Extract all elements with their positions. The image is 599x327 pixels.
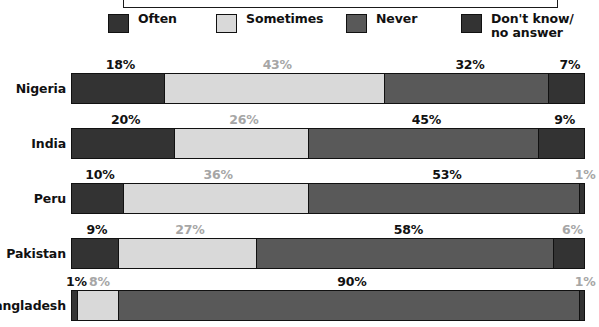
bar-value-label: 1% — [66, 274, 87, 289]
bar-value-label: 8% — [89, 274, 110, 289]
bar-value-label: 45% — [412, 112, 441, 127]
bar-value-label: 20% — [111, 112, 140, 127]
bar-segment — [579, 184, 584, 213]
bar-value-label: 26% — [229, 112, 258, 127]
chart-row: Bangladesh1%8%90%1% — [0, 272, 599, 327]
bar-segment — [118, 291, 579, 320]
stacked-bar-india — [71, 128, 585, 159]
row-label-bangladesh: Bangladesh — [0, 298, 66, 313]
legend-label-sometimes: Sometimes — [246, 12, 323, 26]
bar-value-label: 53% — [432, 167, 461, 182]
bar-value-label: 9% — [87, 222, 108, 237]
bar-segment — [579, 291, 584, 320]
bar-segment — [308, 129, 538, 158]
legend-swatch-sometimes-icon — [216, 14, 237, 33]
chart-row: Peru10%36%53%1% — [0, 165, 599, 220]
bar-segment — [72, 239, 118, 268]
legend-item-dont-know: Don't know/ no answer — [461, 12, 599, 46]
bar-value-label: 18% — [106, 57, 135, 72]
chart-row: India20%26%45%9% — [0, 110, 599, 165]
legend-item-sometimes: Sometimes — [216, 12, 346, 46]
bar-segment — [118, 239, 256, 268]
bar-segment — [123, 184, 307, 213]
bar-segment — [164, 74, 384, 103]
row-label-pakistan: Pakistan — [0, 246, 66, 261]
bar-value-label: 32% — [455, 57, 484, 72]
legend-swatch-often-icon — [108, 14, 129, 33]
chart-row: Pakistan9%27%58%6% — [0, 220, 599, 275]
legend-item-often: Often — [108, 12, 218, 46]
stacked-bar-chart: Often Sometimes Never Don't know/ no ans… — [0, 0, 599, 327]
legend-swatch-never-icon — [346, 14, 367, 33]
bar-segment — [256, 239, 553, 268]
bar-value-label: 9% — [554, 112, 575, 127]
bar-value-label: 10% — [85, 167, 114, 182]
stacked-bar-pakistan — [71, 238, 585, 269]
chart-row: Nigeria18%43%32%7% — [0, 55, 599, 110]
stacked-bar-peru — [71, 183, 585, 214]
bar-value-label: 7% — [559, 57, 580, 72]
row-label-peru: Peru — [0, 191, 66, 206]
legend-border-box — [123, 0, 558, 8]
bar-value-label: 58% — [394, 222, 423, 237]
legend-item-never: Never — [346, 12, 461, 46]
bar-segment — [72, 129, 174, 158]
stacked-bar-nigeria — [71, 73, 585, 104]
bar-value-label: 1% — [575, 274, 596, 289]
bar-value-label: 90% — [337, 274, 366, 289]
bar-segment — [72, 184, 123, 213]
legend-label-never: Never — [376, 12, 417, 26]
row-label-india: India — [0, 136, 66, 151]
bar-segment — [548, 74, 584, 103]
bar-value-label: 43% — [263, 57, 292, 72]
bar-segment — [308, 184, 579, 213]
legend-swatch-dont-know-icon — [461, 14, 482, 33]
bar-segment — [174, 129, 307, 158]
bar-segment — [538, 129, 584, 158]
bar-value-label: 27% — [175, 222, 204, 237]
bar-segment — [384, 74, 548, 103]
bar-value-label: 1% — [575, 167, 596, 182]
row-label-nigeria: Nigeria — [0, 81, 66, 96]
bar-segment — [77, 291, 118, 320]
bar-segment — [553, 239, 584, 268]
bar-segment — [72, 74, 164, 103]
bar-value-label: 36% — [204, 167, 233, 182]
stacked-bar-bangladesh — [71, 290, 585, 321]
legend-label-dont-know: Don't know/ no answer — [491, 12, 574, 39]
legend-label-often: Often — [138, 12, 177, 26]
bar-value-label: 6% — [562, 222, 583, 237]
chart-legend: Often Sometimes Never Don't know/ no ans… — [108, 12, 599, 46]
